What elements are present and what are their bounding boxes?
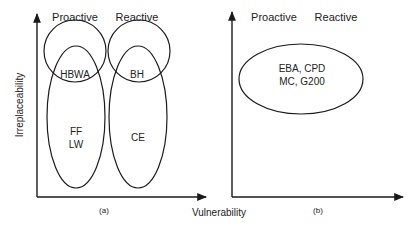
proactive-ellipse xyxy=(47,46,105,188)
x-axis-label: Vulnerability xyxy=(192,207,246,218)
header-proactive-b: Proactive xyxy=(251,11,297,23)
region-lw: LW xyxy=(69,139,84,150)
panel-a: Proactive Reactive HBWA BH FF LW CE Irre… xyxy=(14,11,206,215)
region-ce: CE xyxy=(131,132,145,143)
caption-a: (a) xyxy=(99,206,109,215)
region-bh: BH xyxy=(130,69,144,80)
header-reactive-a: Reactive xyxy=(116,11,159,23)
header-reactive-b: Reactive xyxy=(315,11,358,23)
region-ff: FF xyxy=(70,126,82,137)
header-proactive-a: Proactive xyxy=(52,11,98,23)
region-mc-g200: MC, G200 xyxy=(279,76,325,87)
diagram-canvas: Proactive Reactive HBWA BH FF LW CE Irre… xyxy=(0,0,415,229)
reactive-ellipse xyxy=(109,46,167,188)
region-hbwa: HBWA xyxy=(60,69,90,80)
panel-b: Proactive Reactive EBA, CPD MC, G200 (b) xyxy=(232,11,403,215)
y-axis-label: Irreplaceability xyxy=(14,73,25,137)
caption-b: (b) xyxy=(313,206,323,215)
region-eba-cpd: EBA, CPD xyxy=(279,63,326,74)
